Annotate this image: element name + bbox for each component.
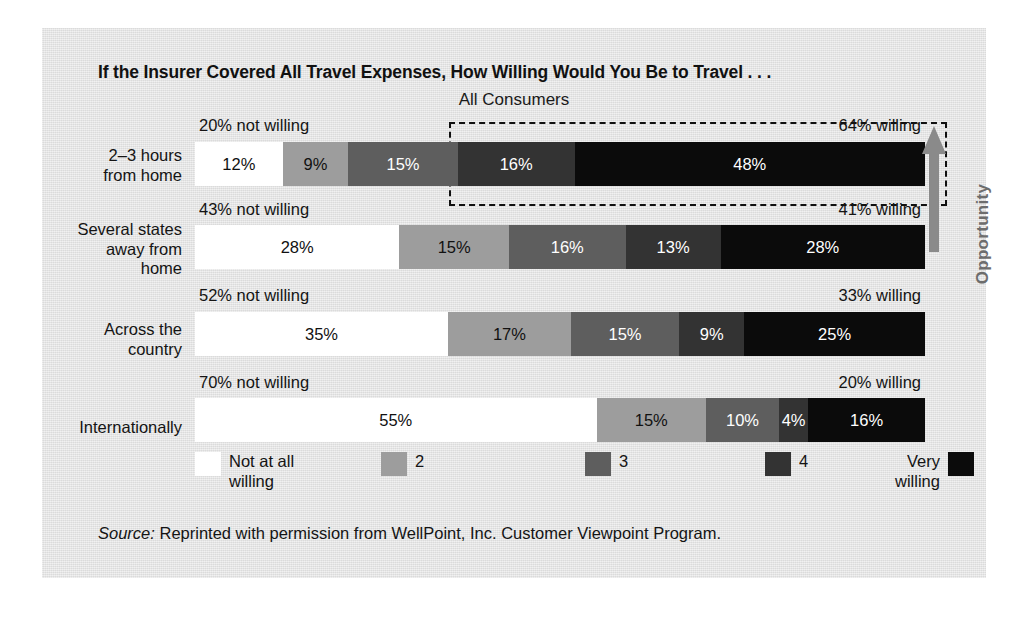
bar-segment: 15%: [399, 225, 509, 269]
row-category-label: Internationally: [42, 418, 182, 438]
willing-caption: 20% willing: [195, 373, 921, 392]
bar-segment: 15%: [597, 398, 707, 442]
stacked-bar: 28%15%16%13%28%: [195, 225, 925, 269]
bar-segment: 16%: [808, 398, 925, 442]
legend-label: 2: [415, 452, 424, 472]
stacked-bar: 12%9%15%16%48%: [195, 142, 925, 186]
up-arrow-icon: [920, 124, 948, 252]
bar-segment: 25%: [744, 312, 925, 356]
legend-swatch: [381, 452, 407, 476]
willing-caption: 64% willing: [195, 116, 921, 135]
legend-label: 4: [799, 452, 808, 472]
legend-item: Not at allwilling: [195, 452, 294, 491]
chart-subtitle: All Consumers: [42, 90, 986, 110]
bar-segment: 55%: [195, 398, 597, 442]
source-label: Source:: [98, 524, 155, 542]
legend-item: 2: [381, 452, 424, 476]
bar-segment: 16%: [509, 225, 626, 269]
legend-swatch: [948, 452, 974, 476]
bar-segment: 4%: [779, 398, 808, 442]
willing-caption: 33% willing: [195, 286, 921, 305]
bar-segment: 28%: [721, 225, 925, 269]
bar-segment: 13%: [626, 225, 721, 269]
chart-page: If the Insurer Covered All Travel Expens…: [0, 0, 1028, 624]
bar-segment: 16%: [458, 142, 575, 186]
legend-swatch: [585, 452, 611, 476]
legend-item: Verywilling: [895, 452, 974, 491]
bar-segment: 9%: [679, 312, 744, 356]
source-text: Reprinted with permission from WellPoint…: [155, 524, 721, 542]
bar-segment: 15%: [571, 312, 679, 356]
bar-segment: 35%: [195, 312, 448, 356]
row-category-label: 2–3 hoursfrom home: [42, 146, 182, 185]
row-category-label: Across thecountry: [42, 320, 182, 359]
legend-swatch: [765, 452, 791, 476]
legend-item: 3: [585, 452, 628, 476]
stacked-bar: 35%17%15%9%25%: [195, 312, 925, 356]
legend-swatch: [195, 452, 221, 476]
page-title: If the Insurer Covered All Travel Expens…: [98, 62, 928, 83]
bar-segment: 15%: [348, 142, 458, 186]
row-category-label: Several statesaway fromhome: [42, 220, 182, 279]
legend-label: 3: [619, 452, 628, 472]
legend-label: Verywilling: [895, 452, 940, 491]
bar-segment: 10%: [706, 398, 779, 442]
chart-panel: If the Insurer Covered All Travel Expens…: [42, 28, 986, 578]
chart-legend: Not at allwilling234Verywilling: [195, 452, 955, 508]
bar-segment: 9%: [283, 142, 349, 186]
stacked-bar: 55%15%10%4%16%: [195, 398, 925, 442]
willing-caption: 41% willing: [195, 200, 921, 219]
legend-label: Not at allwilling: [229, 452, 294, 491]
opportunity-label: Opportunity: [973, 139, 993, 329]
bar-segment: 17%: [448, 312, 571, 356]
bar-segment: 28%: [195, 225, 399, 269]
legend-item: 4: [765, 452, 808, 476]
bar-segment: 12%: [195, 142, 283, 186]
source-note: Source: Reprinted with permission from W…: [98, 524, 721, 543]
bar-segment: 48%: [575, 142, 925, 186]
